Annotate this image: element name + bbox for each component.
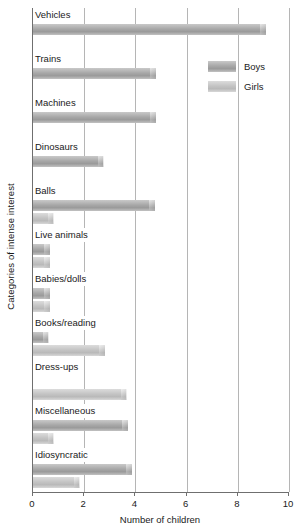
legend-label-boys: Boys	[244, 61, 265, 72]
legend-swatch-boys	[208, 61, 236, 72]
bar-end-highlight	[74, 477, 80, 488]
y-axis-label-text: Categories of intense interest	[5, 183, 16, 310]
category-label: Live animals	[35, 228, 91, 242]
category-label: Trains	[35, 52, 64, 66]
category-group: Books/reading	[33, 316, 288, 360]
category-group: Vehicles	[33, 8, 288, 52]
category-group: Idiosyncratic	[33, 448, 288, 492]
legend-item-girls: Girls	[208, 79, 265, 94]
bar-boys	[33, 156, 103, 167]
x-tick-label: 2	[81, 498, 86, 509]
bar-boys	[33, 464, 132, 475]
category-label: Machines	[35, 96, 79, 110]
y-axis-label: Categories of intense interest	[0, 0, 20, 492]
bar-end-highlight	[44, 257, 50, 268]
bar-boys	[33, 200, 155, 211]
bar-end-highlight	[44, 301, 50, 312]
bar-end-highlight	[149, 200, 155, 211]
x-tick-label: 8	[234, 498, 239, 509]
x-tick-label: 6	[183, 498, 188, 509]
bar-boys	[33, 420, 128, 431]
x-tick	[186, 492, 187, 496]
category-group: Balls	[33, 184, 288, 228]
category-label: Dinosaurs	[35, 140, 81, 154]
bar-girls	[33, 433, 53, 444]
bar-girls	[33, 477, 79, 488]
x-tick-label: 4	[132, 498, 137, 509]
bar-end-highlight	[44, 288, 50, 299]
bar-chart: Categories of intense interest VehiclesT…	[0, 0, 299, 532]
bar-end-highlight	[48, 213, 54, 224]
x-tick-label: 0	[29, 498, 34, 509]
bar-girls	[33, 389, 126, 400]
bar-boys	[33, 112, 156, 123]
bar-girls	[33, 213, 53, 224]
x-tick	[288, 492, 289, 496]
legend-swatch-girls	[208, 81, 236, 92]
x-axis-label: Number of children	[32, 514, 288, 525]
legend-item-boys: Boys	[208, 59, 265, 74]
x-axis-ticks: 0246810	[32, 492, 288, 512]
bar-end-highlight	[98, 156, 104, 167]
category-group: Live animals	[33, 228, 288, 272]
bar-end-highlight	[99, 345, 105, 356]
category-label: Idiosyncratic	[35, 448, 91, 462]
legend-label-girls: Girls	[244, 81, 264, 92]
category-group: Babies/dolls	[33, 272, 288, 316]
category-label: Babies/dolls	[35, 272, 89, 286]
bar-end-highlight	[126, 464, 132, 475]
category-group: Machines	[33, 96, 288, 140]
category-label: Balls	[35, 184, 59, 198]
category-label: Dress-ups	[35, 360, 81, 374]
bar-boys	[33, 68, 156, 79]
x-tick	[83, 492, 84, 496]
x-tick	[32, 492, 33, 496]
bar-girls	[33, 257, 50, 268]
bar-boys	[33, 332, 48, 343]
category-group: Miscellaneous	[33, 404, 288, 448]
bar-boys	[33, 24, 266, 35]
gridline	[289, 8, 290, 492]
bar-end-highlight	[121, 389, 127, 400]
bar-end-highlight	[122, 420, 128, 431]
bar-boys	[33, 288, 50, 299]
bar-girls	[33, 301, 50, 312]
category-label: Vehicles	[35, 8, 73, 22]
category-label: Miscellaneous	[35, 404, 98, 418]
bar-end-highlight	[260, 24, 266, 35]
legend: Boys Girls	[208, 59, 265, 99]
category-label: Books/reading	[35, 316, 99, 330]
bar-end-highlight	[150, 112, 156, 123]
bar-boys	[33, 244, 50, 255]
x-tick-label: 10	[283, 498, 294, 509]
bar-girls	[33, 345, 105, 356]
bar-end-highlight	[44, 244, 50, 255]
bar-end-highlight	[43, 332, 49, 343]
x-tick	[134, 492, 135, 496]
category-group: Dinosaurs	[33, 140, 288, 184]
bar-end-highlight	[48, 433, 54, 444]
x-tick	[237, 492, 238, 496]
category-group: Dress-ups	[33, 360, 288, 404]
bar-end-highlight	[150, 68, 156, 79]
